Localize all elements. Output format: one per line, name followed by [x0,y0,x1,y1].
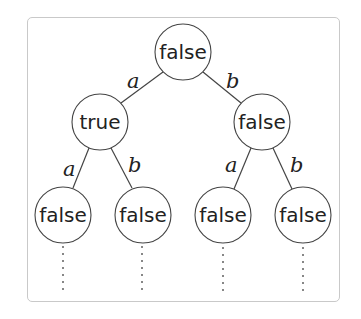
edge-label-right-right: b [290,153,303,177]
edge-label-root-left: a [127,69,140,93]
node-left-right-label: false [119,203,167,227]
edge-label-right-left: a [225,153,238,177]
node-left-left-label: false [39,203,87,227]
node-right-left-label: false [199,203,247,227]
edge-label-left-right: b [128,153,141,177]
edge-label-root-right: b [226,69,239,93]
node-left-label: true [79,110,120,134]
continuation-dots [63,246,303,292]
node-right-right-label: false [279,203,327,227]
tree-diagram: a b a b a b false true false false false… [0,0,361,319]
edge-label-left-left: a [63,157,76,181]
node-right-label: false [238,110,286,134]
node-root-label: false [159,40,207,64]
